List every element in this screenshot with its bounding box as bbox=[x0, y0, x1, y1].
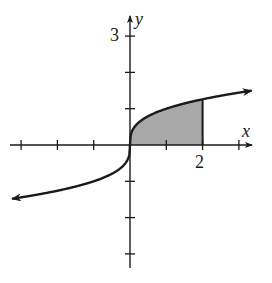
curve-left bbox=[12, 145, 130, 199]
y-axis-label: y bbox=[133, 9, 143, 29]
x-axis-label: x bbox=[241, 121, 250, 141]
graph-figure: x y 2 3 bbox=[0, 0, 272, 283]
y-tick-label-3: 3 bbox=[110, 25, 119, 45]
x-tick-label-2: 2 bbox=[195, 152, 204, 172]
cube-root-plot: x y 2 3 bbox=[0, 0, 272, 283]
